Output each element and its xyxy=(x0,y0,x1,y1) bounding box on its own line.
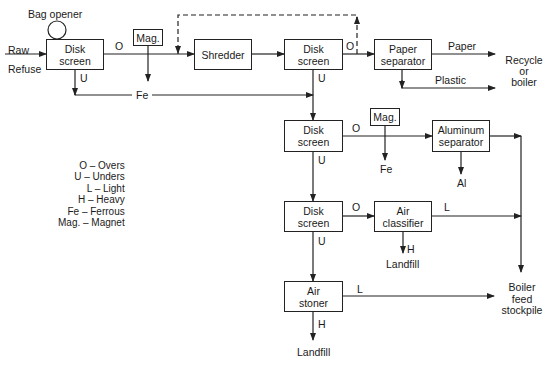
paper-separator: Paper separator xyxy=(374,39,432,70)
edge-label-u2: U xyxy=(318,72,326,84)
legend-item: O – Overs xyxy=(58,160,125,171)
edge-label-u3: U xyxy=(318,154,326,166)
legend-item: U – Unders xyxy=(58,171,125,182)
recycle-or-boiler-label: Recycle or boiler xyxy=(502,55,546,88)
bag-opener-label: Bag opener xyxy=(28,8,82,20)
boiler-feed-stockpile-label: Boiler feed stockpile xyxy=(496,282,548,317)
edge-label-l-classifier: L xyxy=(444,201,450,213)
al-output-label: Al xyxy=(457,177,466,189)
edge-label-o4: O xyxy=(352,201,360,213)
air-stoner: Air stoner xyxy=(284,281,343,312)
disk-screen-2: Disk screen xyxy=(284,39,343,70)
legend-item: L – Light xyxy=(58,183,125,194)
edge-label-o1: O xyxy=(115,40,123,52)
shredder: Shredder xyxy=(194,39,252,70)
raw-refuse-label: Raw Refuse xyxy=(8,41,41,79)
edge-label-fe1: Fe xyxy=(136,89,148,101)
fe-output-label: Fe xyxy=(380,163,392,175)
disk-screen-1: Disk screen xyxy=(46,39,104,70)
disk-screen-3: Disk screen xyxy=(284,120,343,152)
air-classifier: Air classifier xyxy=(374,201,432,232)
magnet-1: Mag. xyxy=(133,29,163,46)
edge-label-o2: O xyxy=(346,40,354,52)
legend-item: Mag. – Magnet xyxy=(58,217,125,228)
landfill-1-label: Landfill xyxy=(386,258,419,270)
edge-label-u1: U xyxy=(80,72,88,84)
edge-label-plastic: Plastic xyxy=(435,74,466,86)
aluminum-separator: Aluminum separator xyxy=(432,120,490,152)
legend-item: H – Heavy xyxy=(58,194,125,205)
landfill-2-label: Landfill xyxy=(297,346,330,358)
edge-label-l-stoner: L xyxy=(357,283,363,295)
legend: O – Overs U – Unders L – Light H – Heavy… xyxy=(58,160,125,228)
edge-label-h-stoner: H xyxy=(318,318,326,330)
edge-label-h-classifier: H xyxy=(407,243,415,255)
edge-label-o3: O xyxy=(352,122,360,134)
edge-label-paper: Paper xyxy=(448,40,476,52)
edge-label-u4: U xyxy=(318,235,326,247)
bag-opener-icon xyxy=(48,21,66,39)
disk-screen-4: Disk screen xyxy=(284,201,343,232)
magnet-2: Mag. xyxy=(370,108,400,126)
legend-item: Fe – Ferrous xyxy=(58,206,125,217)
